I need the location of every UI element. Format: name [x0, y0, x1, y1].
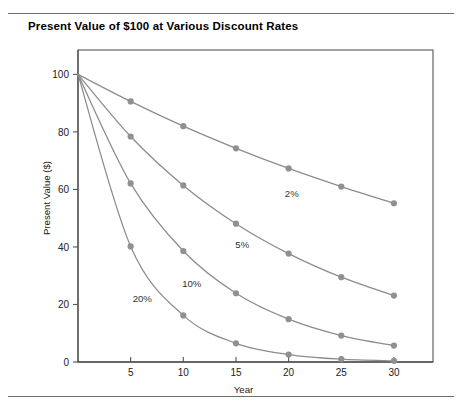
- data-point-marker: [286, 165, 292, 171]
- data-point-marker: [338, 183, 344, 189]
- series-line-2pct: [78, 74, 394, 203]
- x-tick-label: 5: [128, 367, 134, 378]
- data-point-marker: [233, 340, 239, 346]
- data-point-marker: [180, 182, 186, 188]
- series-line-20pct: [78, 74, 394, 360]
- x-tick-label: 30: [388, 367, 400, 378]
- data-point-marker: [128, 243, 134, 249]
- x-tick-label: 25: [336, 367, 348, 378]
- data-point-marker: [391, 358, 397, 364]
- x-tick-label: 20: [283, 367, 295, 378]
- y-tick-label: 0: [63, 357, 69, 368]
- data-point-marker: [338, 356, 344, 362]
- x-tick-label: 10: [178, 367, 190, 378]
- data-point-marker: [286, 351, 292, 357]
- data-point-marker: [391, 200, 397, 206]
- line-chart: 02040608010051015202530YearPresent Value…: [0, 0, 462, 415]
- y-tick-label: 20: [58, 299, 70, 310]
- data-point-marker: [180, 312, 186, 318]
- series-line-10pct: [78, 74, 394, 345]
- data-point-marker: [286, 316, 292, 322]
- data-point-marker: [180, 123, 186, 129]
- data-point-marker: [391, 343, 397, 349]
- y-axis-title: Present Value ($): [41, 161, 52, 235]
- data-point-marker: [338, 332, 344, 338]
- series-line-5pct: [78, 74, 394, 295]
- data-point-marker: [128, 98, 134, 104]
- data-point-marker: [233, 145, 239, 151]
- figure: Present Value of $100 at Various Discoun…: [0, 0, 462, 415]
- series-label-10pct: 10%: [182, 278, 202, 289]
- data-point-marker: [286, 250, 292, 256]
- y-tick-label: 100: [52, 69, 69, 80]
- data-point-marker: [233, 221, 239, 227]
- bottom-divider-rule: [8, 396, 454, 397]
- y-tick-label: 80: [58, 127, 70, 138]
- data-point-marker: [338, 274, 344, 280]
- plot-area: 02040608010051015202530YearPresent Value…: [0, 0, 462, 415]
- series-label-5pct: 5%: [235, 239, 249, 250]
- x-tick-label: 15: [230, 367, 242, 378]
- series-label-20pct: 20%: [133, 293, 153, 304]
- plot-frame: [78, 50, 433, 362]
- series-label-2pct: 2%: [285, 188, 299, 199]
- data-point-marker: [128, 180, 134, 186]
- y-tick-label: 60: [58, 184, 70, 195]
- data-point-marker: [180, 248, 186, 254]
- x-axis-title: Year: [234, 384, 254, 395]
- y-tick-label: 40: [58, 242, 70, 253]
- data-point-marker: [128, 133, 134, 139]
- data-point-marker: [233, 290, 239, 296]
- data-point-marker: [391, 292, 397, 298]
